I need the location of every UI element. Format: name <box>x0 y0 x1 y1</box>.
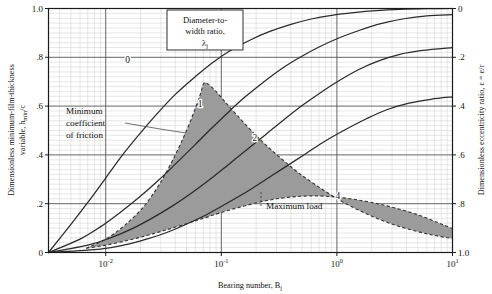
mcf-line1: Minimum <box>66 106 103 116</box>
y-tick-right-3: .6 <box>458 150 465 160</box>
bearing-chart-figure: 1.0.8.6.4.200.2.4.6.81.010-210-1100101 0… <box>0 0 492 294</box>
y-tick-right-4: .8 <box>458 199 465 209</box>
curve-label-0: 0 <box>125 55 130 65</box>
y-tick-right-0: 0 <box>458 4 463 14</box>
y-tick-right-5: 1.0 <box>458 248 470 258</box>
y-tick-left-3: .4 <box>36 150 43 160</box>
y-tick-left-5: 0 <box>39 248 44 258</box>
x-axis-title: Bearing number, Bj <box>218 281 282 291</box>
y-tick-left-1: .8 <box>36 52 43 62</box>
y-axis-left-title-line1: Dimensionless minimum-film-thickness <box>7 64 16 196</box>
mcf-line3: of friction <box>66 130 103 140</box>
legend-title-line1: Diameter-to- <box>183 15 227 25</box>
y-tick-left-2: .6 <box>36 101 43 111</box>
maxload-label: Maximum load <box>266 201 323 211</box>
curve-label-1: 1 <box>198 99 203 109</box>
y-tick-left-4: .2 <box>36 199 43 209</box>
chart-canvas: 1.0.8.6.4.200.2.4.6.81.010-210-1100101 0… <box>0 0 492 294</box>
curve-label-2: 2 <box>252 133 257 143</box>
y-axis-right-title: Dimensionless eccentricity ratio, ε = e/… <box>477 65 486 196</box>
y-tick-right-2: .4 <box>458 101 465 111</box>
legend-box: Diameter-to- width ratio, λj <box>167 10 243 50</box>
y-tick-left-0: 1.0 <box>32 4 44 14</box>
mcf-line2: coefficient <box>66 118 106 128</box>
curve-label-4: 4 <box>336 191 341 201</box>
y-tick-right-1: .2 <box>458 52 465 62</box>
legend-title-line2: width ratio, <box>185 26 225 36</box>
